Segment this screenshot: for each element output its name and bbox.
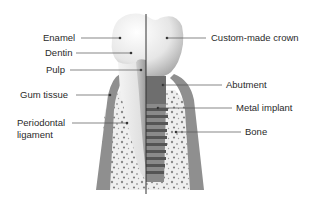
label-enamel: Enamel: [43, 32, 75, 43]
label-periodontal-line1: Periodontal: [17, 117, 65, 128]
diagram-illustration: [0, 0, 315, 201]
label-pulp: Pulp: [46, 64, 65, 75]
label-dentin: Dentin: [45, 47, 72, 58]
label-gum-tissue: Gum tissue: [20, 89, 68, 100]
label-metal-implant: Metal implant: [236, 102, 293, 113]
abutment-shape: [146, 76, 166, 104]
label-custom-made-crown: Custom-made crown: [211, 32, 299, 43]
label-bone: Bone: [245, 126, 267, 137]
label-periodontal-line2: ligament: [17, 129, 53, 140]
tooth-implant-diagram: Enamel Dentin Pulp Gum tissue Periodonta…: [0, 0, 315, 201]
label-abutment: Abutment: [226, 79, 267, 90]
